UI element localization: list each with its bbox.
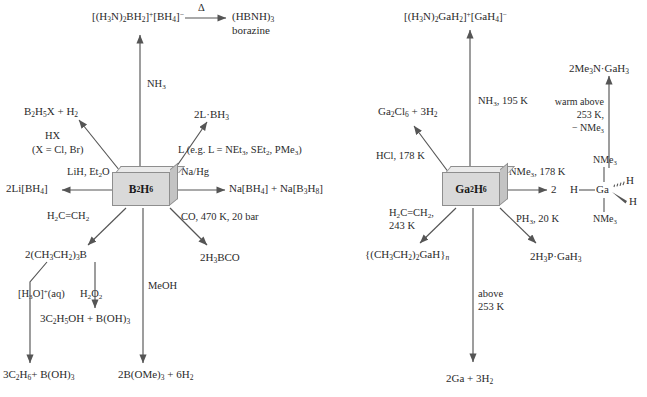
condition-warm-line1: warm above: [548, 96, 604, 108]
reaction-arrows: [0, 0, 647, 397]
structure-hydride-hashed: H: [626, 174, 634, 187]
condition-heat-delta: Δ: [198, 2, 205, 14]
condition-ammonia-boron: NH3: [147, 78, 166, 91]
structure-ligand-top: NMe3: [593, 154, 617, 167]
reactant-diborane-box: B2H6: [112, 172, 178, 208]
structure-hydride-left: H: [570, 183, 578, 196]
condition-above-line2: 253 K: [478, 301, 504, 313]
condition-ammonia-gallium: NH3, 195 K: [478, 95, 528, 108]
condition-hydrogen-chloride: HCl, 178 K: [376, 150, 425, 162]
condition-ethene-boron: H2C=CH2: [47, 210, 89, 223]
product-trimethylborate: 2B(OMe)3 + 6H2: [118, 368, 193, 383]
product-sodium-salts: Na[BH4] + Na[B3H8]: [229, 182, 323, 197]
condition-warm-line3: − NMe3: [548, 122, 604, 135]
condition-hydrogen-halide: HX: [45, 130, 60, 142]
product-triethylborane: 2(CH3CH2)3B: [25, 248, 87, 263]
product-diethylgallium-hydride: {(CH3CH2)2GaH}n: [365, 248, 449, 263]
condition-ethene-gallium-line2: 243 K: [389, 220, 415, 232]
condition-warm-line2: 253 K,: [548, 109, 604, 121]
condition-lewis-base: L (e.g. L = NEt3, SEt2, PMe3): [178, 144, 302, 157]
structure-hydride-wedge: H: [629, 195, 637, 208]
product-gallium-decomposition: 2Ga + 3H2: [446, 372, 493, 387]
product-trimethylamine-gallane: 2Me3N·GaH3: [569, 62, 629, 77]
structure-stoichiometry-prefix: 2: [551, 183, 557, 196]
product-borazine-name: borazine: [232, 24, 270, 37]
structure-gallium-center: Ga: [596, 183, 609, 196]
product-phosphine-gallane: 2H3P·GaH3: [530, 250, 581, 265]
condition-hydronium: [H3O]+(aq): [18, 288, 65, 301]
condition-carbon-monoxide: CO, 470 K, 20 bar: [181, 211, 259, 223]
condition-ethene-gallium-line1: H2C=CH2,: [389, 207, 434, 220]
product-borazine-formula: (HBNH)3: [232, 10, 274, 25]
condition-trimethylamine: NMe3, 178 K: [509, 166, 565, 179]
condition-methanol: MeOH: [148, 280, 177, 292]
product-ethane-boric-acid: 3C2H6+ B(OH)3: [3, 368, 75, 383]
reactant-digallane-box: Ga2H6: [442, 172, 508, 208]
product-lewis-base-adduct: 2L·BH3: [194, 108, 229, 123]
product-gallium-chloride: Ga2Cl6 + 3H2: [378, 105, 438, 120]
product-lithium-borohydride: 2Li[BH4]: [6, 182, 48, 197]
product-borane-carbonyl: 2H3BCO: [200, 251, 240, 266]
condition-phosphine: PH3, 20 K: [516, 213, 559, 226]
product-ethanol-boric-acid: 3C2H5OH + B(OH)3: [40, 312, 130, 327]
product-halodiborane: B2H5X + H2: [24, 105, 78, 120]
reactant-digallane-label: Ga2H6: [442, 172, 500, 206]
condition-hydrogen-peroxide: H2O2: [80, 288, 102, 301]
reactant-diborane-label: B2H6: [112, 172, 170, 206]
condition-sodium-amalgam: Na/Hg: [181, 166, 209, 178]
condition-halide-note: (X = Cl, Br): [32, 144, 83, 156]
condition-lithium-hydride: LiH, Et2O: [67, 166, 110, 179]
product-ammonia-adduct-gallium: [(H3N)2GaH2]+[GaH4]−: [404, 10, 507, 25]
structure-ligand-bottom: NMe3: [593, 213, 617, 226]
product-ammonia-adduct-boron: [(H3N)2BH2]+[BH4]−: [92, 10, 184, 25]
condition-above-line1: above: [478, 288, 503, 300]
